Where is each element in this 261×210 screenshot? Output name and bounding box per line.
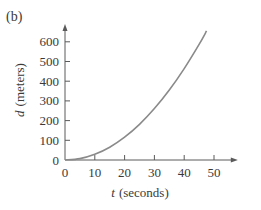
x-axis-label: t(seconds) <box>111 185 168 200</box>
y-axis-unit: (meters) <box>12 63 27 106</box>
x-tick-label: 30 <box>148 165 161 180</box>
x-tick-label: 10 <box>88 165 101 180</box>
x-tick-label: 0 <box>62 165 69 180</box>
chart: (b) 010203040500100200300400500600 t(sec… <box>0 0 261 210</box>
y-tick-label: 0 <box>53 153 60 168</box>
axes <box>63 24 238 162</box>
y-tick-label: 200 <box>40 113 60 128</box>
x-axis-arrow <box>231 158 238 163</box>
y-tick-label: 300 <box>40 93 60 108</box>
panel-label: (b) <box>6 9 23 25</box>
ticks: 010203040500100200300400500600 <box>40 34 221 180</box>
x-tick-label: 40 <box>178 165 191 180</box>
x-tick-label: 50 <box>208 165 221 180</box>
x-axis-var: t <box>111 185 115 200</box>
series <box>65 31 207 160</box>
y-tick-label: 500 <box>40 54 60 69</box>
series-line <box>65 31 207 160</box>
y-axis-label: d(meters) <box>12 63 27 117</box>
y-axis-arrow <box>63 24 68 31</box>
y-tick-label: 400 <box>40 74 60 89</box>
y-tick-label: 600 <box>40 34 60 49</box>
y-axis-var: d <box>12 110 27 117</box>
y-tick-label: 100 <box>40 133 60 148</box>
x-axis-unit: (seconds) <box>119 185 169 200</box>
x-tick-label: 20 <box>118 165 131 180</box>
